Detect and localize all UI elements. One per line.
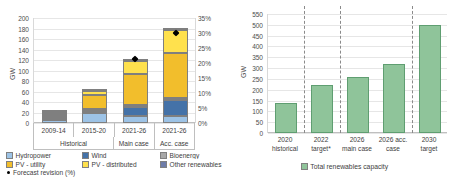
left-stacked-bar	[123, 59, 148, 123]
right-category-line1: 2026 acc.	[375, 136, 411, 145]
legend-item-hydropower: Hydropower	[6, 152, 82, 159]
left-cat-2021-26-acc: 2021-26	[155, 123, 194, 137]
left-chart-panel: GW 020406080100120140160180200 0%5%10%15…	[0, 0, 228, 189]
left-stacked-bar	[163, 28, 188, 123]
left-stacked-bar	[42, 110, 67, 123]
right-gridline	[268, 14, 447, 15]
right-gridline	[268, 133, 447, 134]
right-y-tick: 450	[228, 32, 263, 39]
legend-label-pv-distributed: PV - distributed	[92, 161, 137, 168]
right-category-divider	[340, 6, 341, 133]
left-y2-tick: 5%	[198, 105, 222, 112]
right-category-line1: 2026	[339, 136, 375, 145]
left-bar-segment-wind	[163, 100, 188, 116]
right-plot-area	[267, 14, 447, 133]
left-bar-segment-wind	[123, 107, 148, 116]
left-bar-segment-hydropower	[163, 116, 188, 123]
right-category-line2: target*	[303, 145, 339, 154]
right-y-tick: 0	[228, 130, 263, 137]
left-legend-row-2: PV - utility PV - distributed Other rene…	[6, 161, 228, 168]
left-y-tick: 80	[0, 78, 29, 85]
legend-swatch-pv-utility	[6, 161, 13, 168]
right-y-tick: 200	[228, 86, 263, 93]
right-category-label: 2022target*	[303, 136, 339, 153]
left-bar-segment-pv-utility	[123, 74, 148, 105]
left-y-tick: 180	[0, 25, 29, 32]
legend-label-total-renewables: Total renewables capacity	[310, 163, 388, 170]
left-y2-tick: 25%	[198, 45, 222, 52]
left-y2-tick: 30%	[198, 30, 222, 37]
right-bar	[383, 64, 405, 133]
left-y-tick: 100	[0, 67, 29, 74]
right-y-tick: 350	[228, 54, 263, 61]
right-y-tick: 50	[228, 119, 263, 126]
dual-chart-figure: GW 020406080100120140160180200 0%5%10%15…	[0, 0, 461, 189]
left-y2-tick: 10%	[198, 90, 222, 97]
legend-label-other-renewables: Other renewables	[170, 161, 222, 168]
legend-swatch-bioenergy	[160, 152, 167, 159]
right-bar	[419, 25, 441, 133]
right-category-line2: case	[375, 145, 411, 154]
left-y2-tick: 20%	[198, 60, 222, 67]
right-chart-panel: GW 050100150200250300350400450500550 202…	[228, 0, 461, 189]
right-y-tick: 400	[228, 43, 263, 50]
right-bar	[311, 85, 333, 133]
left-cat-2009-14: 2009-14	[34, 123, 74, 137]
legend-swatch-wind	[82, 152, 89, 159]
left-secondary-axis-line	[195, 18, 196, 123]
right-category-label: 2026 acc.case	[375, 136, 411, 153]
legend-item-pv-utility: PV - utility	[6, 161, 82, 168]
right-y-tick: 250	[228, 75, 263, 82]
right-category-line1: 2020	[267, 136, 303, 145]
left-y-tick: 120	[0, 57, 29, 64]
legend-swatch-pv-distributed	[82, 161, 89, 168]
left-y-tick: 20	[0, 109, 29, 116]
right-category-line2: historical	[267, 145, 303, 154]
legend-swatch-other-renewables	[160, 161, 167, 168]
right-category-label: 2030target	[411, 136, 447, 153]
left-y-tick: 200	[0, 15, 29, 22]
left-y2-tick: 15%	[198, 75, 222, 82]
right-category-line1: 2030	[411, 136, 447, 145]
legend-label-forecast-revision: Forecast revision (%)	[13, 169, 75, 176]
legend-label-bioenergy: Bioenergy	[170, 152, 200, 159]
right-category-line2: target	[411, 145, 447, 154]
left-category-row-period: 2009-14 2015-20 2021-26 2021-26	[34, 123, 194, 137]
left-group-historical: Historical	[34, 137, 114, 150]
left-group-main-case: Main case	[114, 137, 155, 150]
right-y-tick: 500	[228, 21, 263, 28]
right-category-divider	[304, 6, 305, 133]
left-stacked-bar	[82, 89, 107, 123]
left-group-acc-case: Acc. case	[155, 137, 195, 150]
legend-item-other-renewables: Other renewables	[160, 161, 228, 168]
right-category-label: 2020historical	[267, 136, 303, 153]
right-category-line2: main case	[339, 145, 375, 154]
legend-swatch-total-renewables	[301, 163, 308, 170]
left-bar-segment-pv-distributed	[123, 61, 148, 74]
left-bar-segment-hydropower	[82, 113, 107, 123]
left-category-table: 2009-14 2015-20 2021-26 2021-26 Historic…	[33, 123, 195, 150]
left-legend: Hydropower Wind Bioenergy PV - utility	[6, 152, 228, 176]
right-y-tick: 550	[228, 11, 263, 18]
legend-swatch-hydropower	[6, 152, 13, 159]
right-y-tick: 150	[228, 97, 263, 104]
right-category-label: 2026main case	[339, 136, 375, 153]
left-category-row-group: Historical Main case Acc. case	[34, 137, 194, 150]
left-gridline	[34, 18, 195, 19]
left-y-tick: 40	[0, 99, 29, 106]
right-legend: Total renewables capacity	[228, 163, 461, 170]
legend-label-pv-utility: PV - utility	[16, 161, 46, 168]
left-cat-2021-26-main: 2021-26	[115, 123, 155, 137]
left-y2-tick: 35%	[198, 15, 222, 22]
left-plot-area	[33, 18, 195, 123]
left-y2-tick: 0%	[198, 120, 222, 127]
legend-item-bioenergy: Bioenergy	[160, 152, 228, 159]
right-category-line1: 2022	[303, 136, 339, 145]
legend-label-wind: Wind	[92, 152, 107, 159]
right-y-tick: 300	[228, 65, 263, 72]
legend-item-wind: Wind	[82, 152, 160, 159]
left-bar-segment-pv-utility	[82, 95, 107, 108]
legend-item-forecast-revision: Forecast revision (%)	[6, 169, 228, 176]
right-bar	[347, 77, 369, 133]
left-bar-segment-pv-utility	[163, 53, 188, 98]
